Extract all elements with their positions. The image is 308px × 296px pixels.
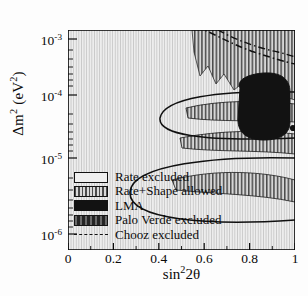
oscillation-parameter-plot: Δm2 (eV2) 10-3 10-4 10-5 10-6 0 0.2 0.4 … bbox=[0, 0, 308, 296]
legend-label-chooz-excluded: Chooz excluded bbox=[115, 228, 199, 242]
light-gray-box-swatch-icon bbox=[74, 172, 108, 183]
x-tick-0.6: 0.6 bbox=[187, 251, 221, 267]
dash-dot-line-swatch-icon bbox=[74, 229, 108, 240]
x-tick-0.2: 0.2 bbox=[96, 251, 130, 267]
solid-black-swatch-icon bbox=[74, 200, 108, 211]
vertical-hatch-swatch-icon bbox=[74, 186, 108, 197]
dark-mottled-swatch-icon bbox=[74, 215, 108, 226]
legend: Rate excluded Rate+Shape allowed LMA Pal… bbox=[74, 170, 254, 242]
legend-item-palo-verde-excluded: Palo Verde excluded bbox=[74, 213, 254, 227]
legend-label-palo-verde-excluded: Palo Verde excluded bbox=[115, 213, 222, 227]
legend-item-rate-shape-allowed: Rate+Shape allowed bbox=[74, 184, 254, 198]
y-tick-1e-4: 10-4 bbox=[16, 89, 62, 105]
legend-item-chooz-excluded: Chooz excluded bbox=[74, 228, 254, 242]
x-tick-1: 1 bbox=[278, 251, 308, 267]
x-tick-0.4: 0.4 bbox=[142, 251, 176, 267]
legend-label-lma: LMA bbox=[115, 199, 144, 213]
y-tick-1e-6: 10-6 bbox=[16, 228, 62, 244]
x-tick-0.8: 0.8 bbox=[233, 251, 267, 267]
legend-label-rate-excluded: Rate excluded bbox=[115, 170, 189, 184]
x-axis-label: sin22θ bbox=[68, 266, 295, 283]
y-tick-1e-3: 10-3 bbox=[16, 33, 62, 49]
legend-item-rate-excluded: Rate excluded bbox=[74, 170, 254, 184]
y-tick-1e-5: 10-5 bbox=[16, 152, 62, 168]
lma-region bbox=[238, 73, 290, 140]
legend-label-rate-shape-allowed: Rate+Shape allowed bbox=[115, 184, 222, 198]
x-tick-0: 0 bbox=[51, 251, 85, 267]
plot-area: Rate excluded Rate+Shape allowed LMA Pal… bbox=[68, 30, 295, 250]
legend-item-lma: LMA bbox=[74, 199, 254, 213]
